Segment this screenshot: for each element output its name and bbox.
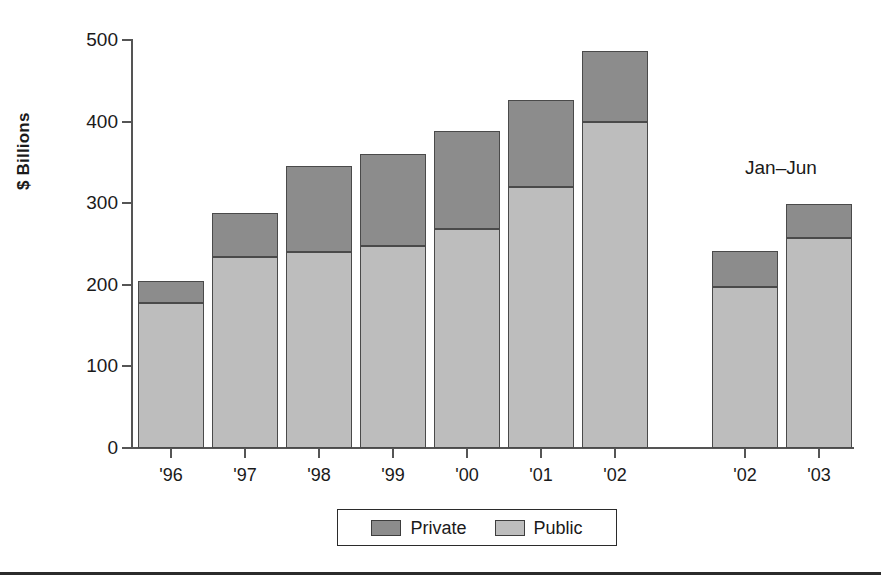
x-tick-mark [318, 449, 320, 458]
bar-stack [508, 100, 574, 448]
y-tick-mark [122, 365, 132, 367]
legend-label-public: Public [534, 519, 583, 537]
y-tick-label: 200 [60, 275, 118, 294]
x-tick-mark [392, 449, 394, 458]
x-tick-label: '99 [363, 465, 423, 485]
legend-item-public[interactable]: Public [495, 519, 583, 537]
y-tick-label-wrap: 100 [52, 356, 118, 375]
y-tick-label-wrap: 400 [52, 112, 118, 131]
bar-stack [434, 131, 500, 448]
bar-segment-public [138, 303, 204, 448]
page-bottom-rule [0, 572, 881, 575]
x-tick-label: '03 [789, 465, 849, 485]
bar-segment-public [286, 252, 352, 448]
bar-segment-private [138, 281, 204, 303]
x-tick-mark [540, 449, 542, 458]
x-tick-label: '98 [289, 465, 349, 485]
y-tick-mark [122, 447, 132, 449]
y-tick-label-wrap: 0 [52, 438, 118, 457]
chart-legend: Private Public [337, 509, 617, 546]
legend-item-private[interactable]: Private [371, 519, 466, 537]
y-tick-label-wrap: 500 [52, 30, 118, 49]
bar-segment-public [582, 122, 648, 448]
chart-figure: $ Billions 0100200300400500 '96'97'98'99… [0, 0, 881, 585]
bar-segment-private [286, 166, 352, 252]
bar-segment-public [434, 229, 500, 448]
y-tick-mark [122, 202, 132, 204]
x-tick-label: '02 [715, 465, 775, 485]
bar-segment-private [786, 204, 852, 238]
x-tick-mark [170, 449, 172, 458]
y-tick-label: 100 [60, 356, 118, 375]
x-tick-mark [466, 449, 468, 458]
bar-segment-private [212, 213, 278, 257]
bar-segment-private [582, 51, 648, 122]
y-axis-label: $ Billions [14, 10, 34, 190]
y-tick-label: 400 [60, 112, 118, 131]
x-tick-label: '97 [215, 465, 275, 485]
bar-stack [138, 281, 204, 448]
x-tick-label: '00 [437, 465, 497, 485]
x-tick-label: '02 [585, 465, 645, 485]
bar-stack [286, 166, 352, 448]
x-tick-label: '96 [141, 465, 201, 485]
bar-segment-public [212, 257, 278, 448]
legend-label-private: Private [410, 519, 466, 537]
y-tick-mark [122, 284, 132, 286]
legend-swatch-private-icon [371, 520, 401, 536]
legend-swatch-public-icon [495, 520, 525, 536]
bar-segment-public [712, 287, 778, 448]
x-tick-mark [614, 449, 616, 458]
x-tick-mark [244, 449, 246, 458]
bar-stack [582, 51, 648, 448]
y-tick-label: 500 [60, 30, 118, 49]
bar-segment-private [434, 131, 500, 230]
y-tick-label-wrap: 300 [52, 193, 118, 212]
y-tick-label-wrap: 200 [52, 275, 118, 294]
bar-stack [712, 251, 778, 448]
bar-segment-public [786, 238, 852, 448]
bar-segment-private [360, 154, 426, 246]
bar-segment-public [360, 246, 426, 448]
bar-segment-public [508, 187, 574, 448]
bar-stack [360, 154, 426, 448]
bar-stack [212, 213, 278, 448]
jan-jun-annotation: Jan–Jun [745, 157, 817, 179]
x-tick-mark [818, 449, 820, 458]
x-tick-mark [744, 449, 746, 458]
bar-segment-private [508, 100, 574, 186]
y-tick-mark [122, 121, 132, 123]
x-tick-label: '01 [511, 465, 571, 485]
y-tick-label: 0 [60, 438, 118, 457]
bar-segment-private [712, 251, 778, 287]
bar-stack [786, 204, 852, 448]
y-tick-mark [122, 39, 132, 41]
plot-area [132, 40, 854, 448]
y-tick-label: 300 [60, 193, 118, 212]
